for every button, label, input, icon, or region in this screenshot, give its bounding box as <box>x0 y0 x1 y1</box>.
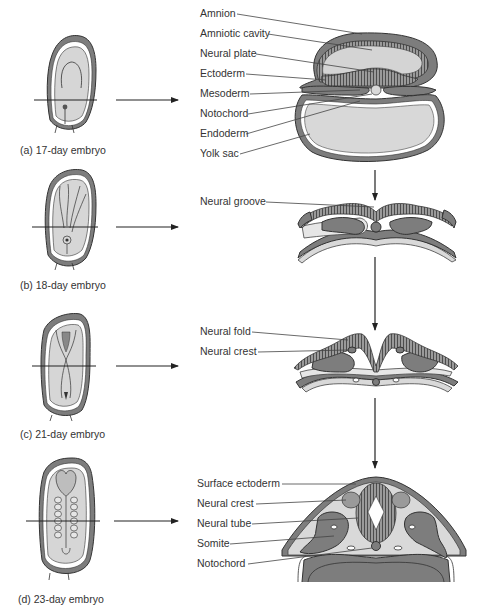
panel-d: (d) 23-day embryo Surfac <box>18 458 466 605</box>
label-neural-fold: Neural fold <box>200 325 251 337</box>
caption-c: (c) 21-day embryo <box>20 428 105 440</box>
mesoderm-right <box>390 218 432 235</box>
neural-tube-development-figure: (a) 17-day embryo Amnion Amniotic cavity <box>0 0 477 611</box>
primitive-node <box>65 238 68 241</box>
primitive-node <box>63 105 68 110</box>
label-notochord: Notochord <box>197 557 246 569</box>
label-ectoderm: Ectoderm <box>200 67 245 79</box>
caption-d: (d) 23-day embryo <box>18 593 104 605</box>
cross-section-17-day <box>295 33 444 162</box>
embryo-18-day-dorsal-view <box>32 170 98 270</box>
label-neural-tube: Neural tube <box>197 517 251 529</box>
label-mesoderm: Mesoderm <box>200 87 250 99</box>
label-endoderm: Endoderm <box>200 127 249 139</box>
label-neural-crest: Neural crest <box>197 497 254 509</box>
cross-section-23-day <box>282 477 466 582</box>
panel-b: (b) 18-day embryo Neural groove <box>20 170 456 330</box>
embryo-21-day-dorsal-view <box>32 314 96 421</box>
neural-crest-left <box>348 347 356 353</box>
label-neural-groove: Neural groove <box>200 195 266 207</box>
cross-section-21-day <box>294 334 458 392</box>
label-neural-plate: Neural plate <box>200 47 257 59</box>
mesoderm-right <box>384 86 437 95</box>
label-notochord: Notochord <box>200 107 249 119</box>
label-surface-ectoderm: Surface ectoderm <box>197 477 280 489</box>
notochord <box>372 542 381 551</box>
label-neural-crest: Neural crest <box>200 345 257 357</box>
panel-c: (c) 21-day embryo Neural fold Neural cre… <box>20 314 458 468</box>
label-amnion: Amnion <box>200 7 236 19</box>
neural-crest-right <box>392 492 410 508</box>
notochord <box>373 379 380 386</box>
embryo-23-day-dorsal-view <box>26 458 100 580</box>
caption-b: (b) 18-day embryo <box>20 279 106 291</box>
caption-a: (a) 17-day embryo <box>20 144 106 156</box>
label-yolk-sac: Yolk sac <box>200 147 239 159</box>
neural-crest-right <box>396 347 404 353</box>
label-amniotic-cavity: Amniotic cavity <box>200 27 271 39</box>
notochord <box>371 222 381 232</box>
embryo-17-day-dorsal-view <box>34 36 97 133</box>
notochord <box>371 85 381 95</box>
cross-section-18-day <box>298 204 456 263</box>
label-somite: Somite <box>197 537 230 549</box>
